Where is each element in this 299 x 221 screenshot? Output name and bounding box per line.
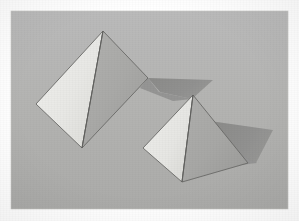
illustration-scene bbox=[0, 0, 299, 221]
artboard bbox=[0, 0, 299, 221]
pyramids-vector-graphic bbox=[0, 0, 299, 221]
